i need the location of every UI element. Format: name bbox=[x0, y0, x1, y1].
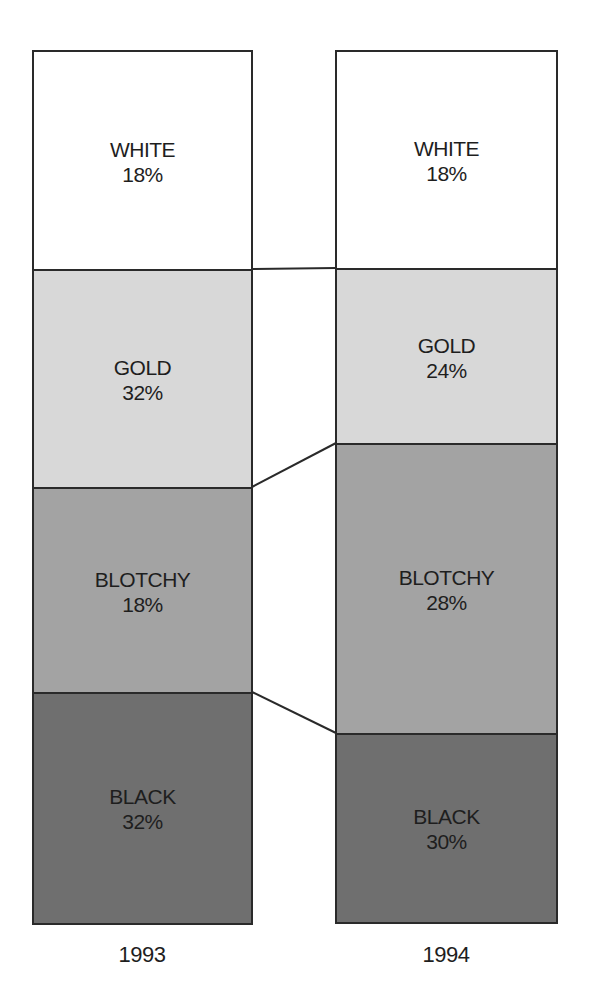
segment-value: 28% bbox=[426, 590, 467, 615]
bar-1993: WHITE 18% GOLD 32% BLOTCHY 18% BLACK 32% bbox=[32, 50, 253, 925]
segment-value: 18% bbox=[122, 162, 163, 187]
segment-label: BLOTCHY bbox=[95, 567, 191, 592]
segment-label: WHITE bbox=[414, 136, 479, 161]
connector-blotchy-black bbox=[252, 692, 336, 733]
segment-label: BLOTCHY bbox=[399, 565, 495, 590]
segment-white-1994: WHITE 18% bbox=[337, 52, 556, 270]
stacked-bar-chart: WHITE 18% GOLD 32% BLOTCHY 18% BLACK 32%… bbox=[0, 0, 590, 986]
x-axis-label-1994: 1994 bbox=[386, 942, 506, 968]
segment-value: 32% bbox=[122, 809, 163, 834]
segment-black-1993: BLACK 32% bbox=[34, 692, 251, 923]
segment-label: BLACK bbox=[109, 784, 175, 809]
segment-black-1994: BLACK 30% bbox=[337, 733, 556, 922]
segment-value: 30% bbox=[426, 829, 467, 854]
segment-gold-1994: GOLD 24% bbox=[337, 268, 556, 445]
segment-label: WHITE bbox=[110, 137, 175, 162]
segment-white-1993: WHITE 18% bbox=[34, 52, 251, 271]
segment-value: 24% bbox=[426, 358, 467, 383]
segment-gold-1993: GOLD 32% bbox=[34, 269, 251, 489]
x-axis-label-1993: 1993 bbox=[82, 942, 202, 968]
segment-value: 18% bbox=[122, 592, 163, 617]
segment-label: GOLD bbox=[114, 355, 172, 380]
segment-label: BLACK bbox=[413, 804, 479, 829]
segment-value: 32% bbox=[122, 380, 163, 405]
segment-blotchy-1993: BLOTCHY 18% bbox=[34, 487, 251, 694]
segment-blotchy-1994: BLOTCHY 28% bbox=[337, 443, 556, 735]
segment-label: GOLD bbox=[418, 333, 476, 358]
connector-white-gold bbox=[252, 268, 336, 269]
bar-1994: WHITE 18% GOLD 24% BLOTCHY 28% BLACK 30% bbox=[335, 50, 558, 924]
connector-gold-blotchy bbox=[252, 443, 336, 487]
segment-value: 18% bbox=[426, 161, 467, 186]
